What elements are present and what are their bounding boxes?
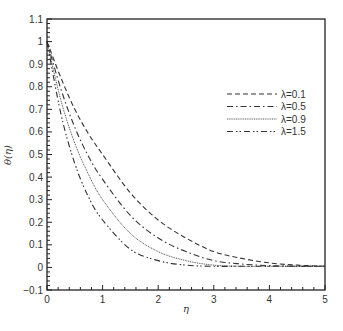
x-tick-label: 1 [100, 294, 106, 305]
legend-label: λ=1.5 [281, 126, 306, 137]
y-tick-label: 0.2 [29, 217, 43, 228]
y-tick-label: 0.4 [29, 172, 43, 183]
x-tick-label: 3 [211, 294, 217, 305]
curve-λ=0.9 [47, 42, 325, 267]
x-tick-label: 0 [44, 294, 50, 305]
y-tick-label: 0.6 [29, 126, 43, 137]
y-tick-label: 0.7 [29, 104, 43, 115]
plot-frame [47, 19, 325, 290]
y-tick-label: −0.1 [23, 285, 43, 296]
x-tick-label: 2 [155, 294, 161, 305]
y-tick-label: 0.3 [29, 194, 43, 205]
y-tick-label: 0.1 [29, 239, 43, 250]
curve-λ=0.5 [47, 42, 325, 267]
y-tick-label: 0.8 [29, 81, 43, 92]
curve-λ=1.5 [47, 42, 325, 267]
curve-λ=0.1 [47, 42, 325, 267]
legend-label: λ=0.1 [281, 89, 306, 100]
y-tick-label: 0 [37, 262, 43, 273]
axis-ticks [47, 19, 325, 290]
data-curves [47, 42, 325, 267]
chart: 012345 −0.100.10.20.30.40.50.60.70.80.91… [0, 0, 343, 331]
legend-label: λ=0.5 [281, 101, 306, 112]
y-tick-labels: −0.100.10.20.30.40.50.60.70.80.911.1 [23, 14, 43, 296]
y-tick-label: 1.1 [29, 14, 43, 25]
y-tick-label: 0.9 [29, 59, 43, 70]
x-tick-label: 5 [322, 294, 328, 305]
legend: λ=0.1λ=0.5λ=0.9λ=1.5 [227, 89, 306, 138]
x-axis-label: η [183, 303, 189, 314]
plot-canvas: 012345 −0.100.10.20.30.40.50.60.70.80.91… [0, 0, 343, 331]
y-axis-label: θ(η) [2, 145, 13, 165]
y-tick-label: 1 [37, 36, 43, 47]
legend-label: λ=0.9 [281, 114, 306, 125]
y-tick-label: 0.5 [29, 149, 43, 160]
x-tick-label: 4 [267, 294, 273, 305]
